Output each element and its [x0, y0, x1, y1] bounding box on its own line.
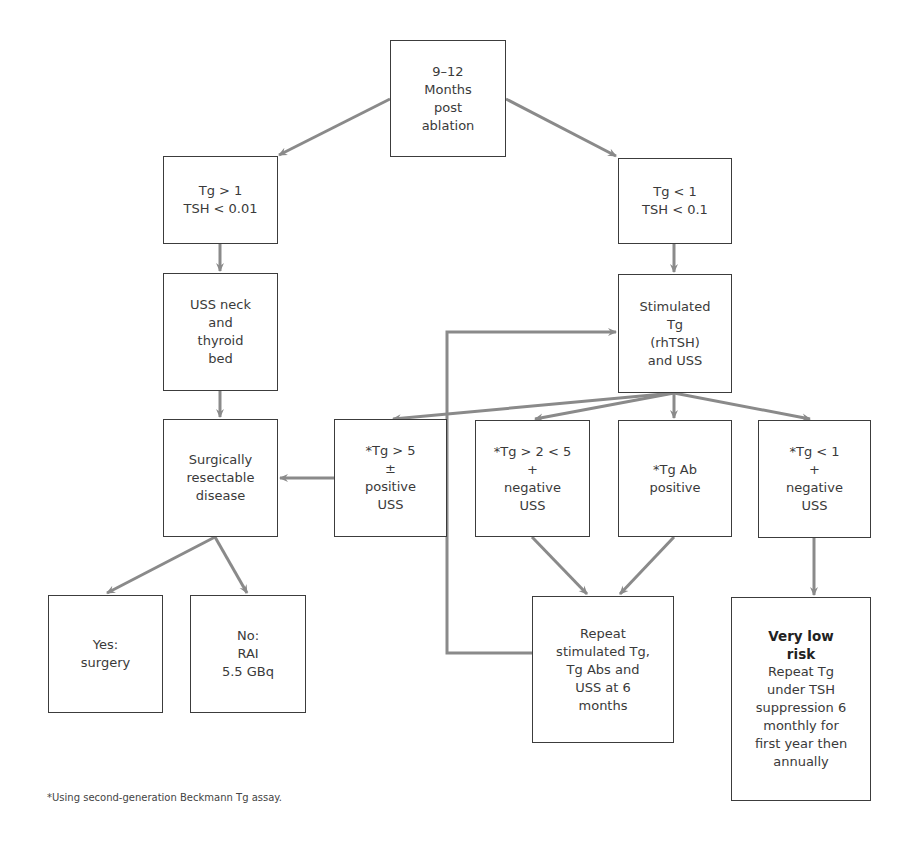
node-text: USS at 6 [575, 679, 631, 697]
node-very-low-risk: Very low risk Repeat Tg under TSH suppre… [731, 597, 871, 801]
edge-resectable-no [215, 537, 247, 593]
node-yes-surgery: Yes: surgery [48, 595, 163, 713]
node-text: Yes: [93, 636, 118, 654]
node-text: TSH < 0.1 [642, 201, 708, 219]
flowchart-canvas: 9–12 Months post ablation Tg > 1 TSH < 0… [0, 0, 922, 842]
node-text: 9–12 [432, 63, 463, 81]
node-text: Tg > 1 [199, 182, 243, 200]
edge-stim-tg-gt5 [393, 393, 674, 419]
edge-start-tg-low [506, 99, 616, 156]
node-text: and USS [648, 352, 703, 370]
node-text: *Tg < 1 [789, 443, 839, 461]
node-text: monthly for [763, 717, 839, 735]
node-text: USS [377, 496, 403, 514]
node-tg-gt5: *Tg > 5 ± positive USS [334, 419, 447, 537]
node-text: and [208, 314, 232, 332]
node-stimulated: Stimulated Tg (rhTSH) and USS [618, 274, 732, 393]
node-text: surgery [81, 654, 130, 672]
node-text: negative [504, 479, 561, 497]
node-text: positive [650, 479, 701, 497]
node-text: *Tg > 2 < 5 [494, 443, 572, 461]
node-text: negative [786, 479, 843, 497]
node-tg-lt1: *Tg < 1 + negative USS [758, 420, 871, 538]
node-text: first year then [755, 735, 847, 753]
node-text: (rhTSH) [650, 334, 699, 352]
node-text: ablation [422, 117, 475, 135]
edge-tg-2-5-repeat [532, 537, 587, 594]
node-uss-neck: USS neck and thyroid bed [163, 273, 278, 391]
node-text: post [434, 99, 462, 117]
node-text: resectable [187, 469, 255, 487]
node-text: + [527, 461, 538, 479]
edge-tgab-repeat [620, 537, 674, 594]
node-title: Very low [768, 627, 833, 645]
node-text: stimulated Tg, [556, 643, 650, 661]
node-text: RAI [237, 645, 258, 663]
node-text: Tg Abs and [567, 661, 640, 679]
node-resectable: Surgically resectable disease [163, 419, 278, 537]
node-text: Repeat Tg [768, 663, 834, 681]
node-start: 9–12 Months post ablation [390, 40, 506, 157]
node-text: disease [196, 487, 245, 505]
node-text: Surgically [189, 451, 253, 469]
node-text: positive [365, 478, 416, 496]
node-text: USS [801, 497, 827, 515]
edge-resectable-yes [107, 537, 215, 593]
node-text: bed [208, 350, 233, 368]
edge-stim-tg-lt1 [674, 393, 810, 419]
node-text: suppression 6 [756, 699, 846, 717]
node-text: 5.5 GBq [222, 663, 274, 681]
node-text: Tg < 1 [653, 183, 697, 201]
edge-start-tg-high [279, 99, 390, 155]
node-text: USS [519, 497, 545, 515]
node-text: Repeat [580, 625, 626, 643]
node-text: *Tg > 5 [365, 442, 415, 460]
node-text: No: [237, 627, 259, 645]
node-text: USS neck [190, 296, 251, 314]
node-text: + [809, 461, 820, 479]
node-text: annually [773, 753, 829, 771]
node-text: months [579, 697, 628, 715]
node-text: under TSH [767, 681, 835, 699]
node-repeat: Repeat stimulated Tg, Tg Abs and USS at … [532, 596, 674, 743]
node-text: thyroid [198, 332, 244, 350]
node-tg-2-5: *Tg > 2 < 5 + negative USS [475, 420, 590, 537]
node-text: Tg [667, 316, 683, 334]
node-text: *Tg Ab [653, 461, 697, 479]
node-tg-high: Tg > 1 TSH < 0.01 [163, 156, 278, 244]
node-tg-low: Tg < 1 TSH < 0.1 [618, 158, 732, 244]
node-title: risk [787, 645, 815, 663]
node-text: TSH < 0.01 [183, 200, 257, 218]
node-tgab: *Tg Ab positive [618, 420, 732, 537]
edge-stim-tg-2-5 [535, 393, 674, 419]
node-text: ± [385, 460, 396, 478]
footnote: *Using second-generation Beckmann Tg ass… [47, 792, 282, 803]
node-text: Months [424, 81, 472, 99]
node-no-rai: No: RAI 5.5 GBq [190, 595, 306, 713]
node-text: Stimulated [640, 298, 711, 316]
